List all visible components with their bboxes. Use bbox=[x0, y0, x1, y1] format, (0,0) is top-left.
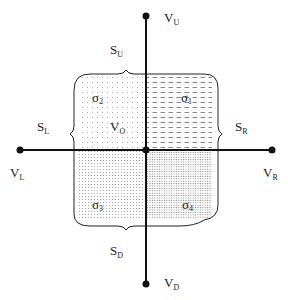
point-vu bbox=[143, 13, 150, 20]
region-sigma4-fill bbox=[146, 150, 212, 218]
point-vl bbox=[17, 147, 24, 154]
region-sigma1-fill bbox=[146, 76, 212, 150]
label-sd: SD bbox=[110, 243, 123, 260]
region-sigma2-fill bbox=[78, 76, 146, 150]
point-center bbox=[143, 147, 150, 154]
point-vd bbox=[143, 281, 150, 288]
label-vr: VR bbox=[263, 165, 278, 182]
quadrant-diagram: VU VD VL VR SU SD SL SR VO σ1 σ2 σ3 σ4 bbox=[0, 0, 288, 300]
point-vr bbox=[269, 147, 276, 154]
label-sl: SL bbox=[37, 119, 49, 136]
label-vu: VU bbox=[164, 10, 179, 27]
label-vl: VL bbox=[10, 165, 24, 182]
brace-left bbox=[70, 90, 74, 214]
region-sigma3-fill bbox=[78, 150, 146, 218]
label-sr: SR bbox=[235, 119, 248, 136]
label-vd: VD bbox=[164, 275, 179, 292]
label-su: SU bbox=[110, 42, 123, 59]
